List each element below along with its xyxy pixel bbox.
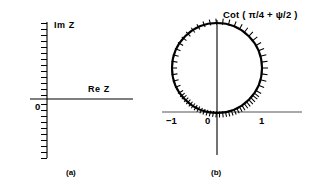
imaginary-axis-label: Im Z [54,20,75,30]
cotangent-formula-label: Cot ( π/4 + ψ/2 ) [223,9,298,20]
real-axis-label: Re Z [88,84,110,94]
circle-radial-ticks [171,19,268,118]
tick-label-one: 1 [259,115,265,126]
panel-b-drawing: Cot ( π/4 + ψ/2 ) −1 0 1 (b) [156,0,312,188]
figure-container: Im Z Re Z 0 (a) [0,0,312,188]
panel-a-complex-plane: Im Z Re Z 0 (a) [0,0,156,188]
origin-label-a: 0 [35,101,40,112]
imaginary-axis-ticks [41,24,47,159]
panel-b-caption: (b) [211,168,222,177]
panel-a-drawing: Im Z Re Z 0 (a) [0,0,156,188]
panel-b-cotangent-circle: Cot ( π/4 + ψ/2 ) −1 0 1 (b) [156,0,312,188]
origin-label-b: 0 [205,115,210,126]
panel-a-caption: (a) [66,168,76,177]
tick-label-minus-one: −1 [166,115,178,126]
